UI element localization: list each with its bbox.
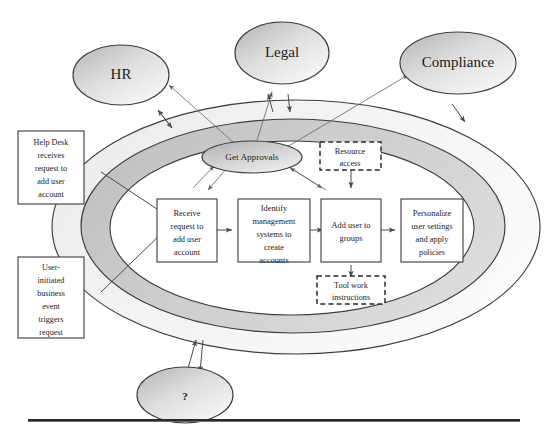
- user-initiated-line-6: request: [39, 328, 63, 337]
- step-4-line-2: user settings: [411, 222, 453, 231]
- tool-work-line-1: Tool work: [334, 281, 369, 290]
- resource-access-line-1: Resource: [335, 147, 366, 156]
- footer-horizontal-rule: [28, 419, 520, 422]
- step-3-line-2: groups: [340, 234, 363, 243]
- step-2-line-1: Identify: [261, 204, 288, 213]
- user-initiated-line-5: triggers: [38, 315, 63, 324]
- dashed-box-resource-access[interactable]: Resource access: [320, 142, 381, 170]
- step-3-rect[interactable]: [321, 199, 381, 262]
- help-desk-line-2: receives: [38, 151, 65, 160]
- external-entity-compliance[interactable]: Compliance: [400, 32, 516, 94]
- process-step-1[interactable]: Receive request to add user account: [157, 199, 217, 262]
- step-2-line-5: accounts: [259, 256, 288, 265]
- step-3-line-1: Add user to: [331, 221, 370, 230]
- user-initiated-line-3: business: [37, 289, 65, 298]
- process-flow-diagram: HR Legal Compliance ? Get Approvals Help…: [0, 0, 548, 436]
- trigger-box-user-initiated[interactable]: User- initiated business event triggers …: [18, 257, 84, 338]
- step-1-line-3: add user: [173, 235, 201, 244]
- dashed-box-tool-work-instructions[interactable]: Tool work instructions: [317, 276, 385, 304]
- external-entity-legal[interactable]: Legal: [235, 22, 329, 84]
- trigger-box-help-desk[interactable]: Help Desk receives request to add user a…: [18, 131, 84, 204]
- resource-access-line-2: access: [340, 159, 361, 168]
- step-4-line-1: Personalize: [413, 209, 452, 218]
- get-approvals-node[interactable]: Get Approvals: [202, 141, 302, 173]
- step-1-line-4: account: [174, 248, 201, 257]
- step-1-line-1: Receive: [174, 209, 201, 218]
- help-desk-line-3: request to: [35, 164, 67, 173]
- help-desk-line-1: Help Desk: [34, 138, 70, 147]
- tool-work-line-2: instructions: [332, 293, 370, 302]
- external-entity-unknown[interactable]: ?: [137, 367, 233, 423]
- user-initiated-line-4: event: [42, 302, 60, 311]
- process-step-2[interactable]: Identify management systems to create ac…: [238, 199, 310, 265]
- user-initiated-line-2: initiated: [38, 276, 65, 285]
- help-desk-line-4: add user: [37, 177, 65, 186]
- hr-label: HR: [111, 66, 132, 82]
- help-desk-line-5: account: [38, 190, 64, 199]
- legal-label: Legal: [265, 44, 299, 60]
- step-2-line-2: management: [253, 217, 296, 226]
- step-2-line-3: systems to: [256, 230, 291, 239]
- step-2-line-4: create: [264, 243, 284, 252]
- get-approvals-label: Get Approvals: [225, 152, 279, 162]
- unknown-label: ?: [182, 390, 188, 402]
- user-initiated-line-1: User-: [42, 263, 60, 272]
- process-step-4[interactable]: Personalize user settings and apply poli…: [401, 199, 463, 262]
- compliance-label: Compliance: [422, 54, 495, 70]
- step-1-line-2: request to: [171, 222, 204, 231]
- step-4-line-4: policies: [419, 248, 445, 257]
- external-entity-hr[interactable]: HR: [73, 45, 169, 105]
- diagram-canvas: HR Legal Compliance ? Get Approvals Help…: [0, 0, 548, 436]
- step-4-line-3: and apply: [416, 235, 450, 244]
- process-step-3[interactable]: Add user to groups: [321, 199, 381, 262]
